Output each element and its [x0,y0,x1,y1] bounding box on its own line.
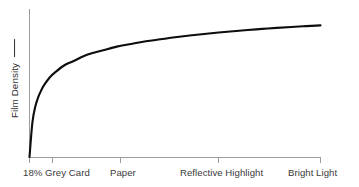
y-axis-direction-dash-icon [15,39,16,57]
x-tick-label-grey-card: 18% Grey Card [23,167,90,178]
x-tick-label-paper: Paper [110,167,136,178]
y-axis-label: Film Density [10,39,21,118]
y-axis-label-text: Film Density [10,63,21,118]
y-axis-label-group: Film Density [4,0,26,157]
chart-canvas [0,0,359,187]
x-tick-label-bright-light: Bright Light [288,167,337,178]
film-density-curve [30,25,321,157]
film-density-chart: Film Density 18% Grey Card Paper Reflect… [0,0,359,187]
x-tick-label-reflective-highlight: Reflective Highlight [180,167,263,178]
